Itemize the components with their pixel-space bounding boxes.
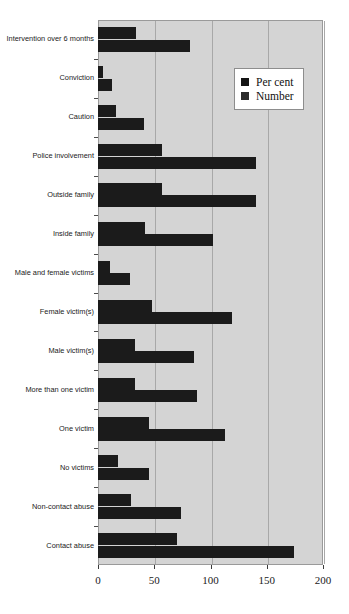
category-label: Conviction bbox=[0, 73, 94, 83]
category-label: More than one victim bbox=[0, 385, 94, 395]
legend-item-number: Number bbox=[241, 90, 294, 102]
bar-group bbox=[98, 144, 323, 169]
bar-per-cent bbox=[98, 378, 135, 390]
bar-number bbox=[98, 468, 149, 480]
bar-per-cent bbox=[98, 144, 162, 156]
bar-number bbox=[98, 312, 232, 324]
y-tick bbox=[94, 293, 98, 294]
category-label: Contact abuse bbox=[0, 541, 94, 551]
category-label: Outside family bbox=[0, 190, 94, 200]
x-tick-50 bbox=[154, 565, 155, 569]
category-label: Non-contact abuse bbox=[0, 502, 94, 512]
bar-number bbox=[98, 195, 256, 207]
category-label: No victims bbox=[0, 463, 94, 473]
bar-group bbox=[98, 27, 323, 52]
x-tick-label-100: 100 bbox=[191, 574, 231, 586]
y-tick bbox=[94, 137, 98, 138]
number-swatch-icon bbox=[241, 92, 249, 100]
bar-group bbox=[98, 339, 323, 364]
bar-group bbox=[98, 455, 323, 480]
y-tick bbox=[94, 409, 98, 410]
category-labels: Intervention over 6 monthsConvictionCaut… bbox=[0, 20, 94, 565]
gridline-200 bbox=[324, 21, 325, 564]
x-tick-100 bbox=[211, 565, 212, 569]
bar-number bbox=[98, 351, 194, 363]
category-label: Intervention over 6 months bbox=[0, 34, 94, 44]
bar-number bbox=[98, 507, 181, 519]
bar-per-cent bbox=[98, 300, 152, 312]
bar-number bbox=[98, 157, 256, 169]
y-tick bbox=[94, 176, 98, 177]
y-tick bbox=[94, 59, 98, 60]
category-label: One victim bbox=[0, 424, 94, 434]
bar-number bbox=[98, 234, 213, 246]
bar-group bbox=[98, 494, 323, 519]
x-tick-0 bbox=[98, 565, 99, 569]
bar-number bbox=[98, 40, 190, 52]
bar-per-cent bbox=[98, 339, 135, 351]
bar-group bbox=[98, 183, 323, 208]
bar-group bbox=[98, 222, 323, 247]
bar-per-cent bbox=[98, 27, 136, 39]
bar-number bbox=[98, 390, 197, 402]
y-tick bbox=[94, 487, 98, 488]
bar-group bbox=[98, 261, 323, 286]
legend-item-per-cent: Per cent bbox=[241, 76, 294, 88]
y-tick bbox=[94, 448, 98, 449]
category-label: Male and female victims bbox=[0, 268, 94, 278]
bar-group bbox=[98, 417, 323, 442]
y-tick bbox=[94, 331, 98, 332]
bar-per-cent bbox=[98, 222, 145, 234]
x-tick-150 bbox=[267, 565, 268, 569]
y-tick bbox=[94, 526, 98, 527]
bar-number bbox=[98, 273, 130, 285]
x-tick-200 bbox=[323, 565, 324, 569]
bar-group bbox=[98, 533, 323, 558]
category-label: Police involvement bbox=[0, 151, 94, 161]
bar-group bbox=[98, 378, 323, 403]
x-tick-label-50: 50 bbox=[134, 574, 174, 586]
bar-per-cent bbox=[98, 66, 103, 78]
bar-per-cent bbox=[98, 533, 177, 545]
x-axis: 050100150200 bbox=[98, 565, 323, 605]
bar-per-cent bbox=[98, 261, 110, 273]
bar-per-cent bbox=[98, 105, 116, 117]
bar-chart: Intervention over 6 monthsConvictionCaut… bbox=[0, 0, 349, 614]
category-label: Caution bbox=[0, 112, 94, 122]
x-tick-label-200: 200 bbox=[303, 574, 343, 586]
category-label: Female victim(s) bbox=[0, 307, 94, 317]
bar-per-cent bbox=[98, 183, 162, 195]
bar-number bbox=[98, 429, 225, 441]
bar-number bbox=[98, 79, 112, 91]
x-tick-label-0: 0 bbox=[78, 574, 118, 586]
y-tick bbox=[94, 215, 98, 216]
bar-number bbox=[98, 118, 144, 130]
y-tick bbox=[94, 98, 98, 99]
y-tick bbox=[94, 254, 98, 255]
bar-group bbox=[98, 300, 323, 325]
percent-swatch-icon bbox=[241, 78, 249, 86]
chart-legend: Per cent Number bbox=[234, 68, 304, 110]
bar-per-cent bbox=[98, 494, 131, 506]
bar-per-cent bbox=[98, 417, 149, 429]
y-tick bbox=[94, 370, 98, 371]
category-label: Male victim(s) bbox=[0, 346, 94, 356]
x-tick-label-150: 150 bbox=[247, 574, 287, 586]
category-label: Inside family bbox=[0, 229, 94, 239]
legend-label-number: Number bbox=[256, 90, 294, 102]
bar-per-cent bbox=[98, 455, 118, 467]
bar-number bbox=[98, 546, 294, 558]
legend-label-per-cent: Per cent bbox=[256, 76, 293, 88]
